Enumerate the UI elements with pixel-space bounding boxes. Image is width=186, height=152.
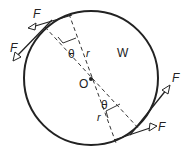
label-force-bottom-2: F (158, 120, 166, 134)
label-center: O (79, 77, 88, 91)
force-top-1-arrowhead (28, 23, 36, 30)
label-force-top-2: F (10, 41, 18, 55)
wheel-diagram: F F F F W O θ r θ r (0, 0, 186, 152)
label-force-bottom-1: F (172, 71, 180, 85)
right-angle-top (58, 37, 76, 43)
force-bottom-2-arrowhead (149, 123, 157, 131)
label-angle-top: θ (68, 47, 75, 61)
center-point (89, 77, 93, 81)
label-weight: W (117, 46, 129, 60)
label-radius-bottom: r (97, 111, 102, 123)
force-bottom-1-arrowhead (162, 85, 170, 94)
label-angle-bottom: θ (101, 98, 108, 112)
label-force-top-1: F (33, 7, 41, 21)
label-radius-top: r (86, 47, 91, 59)
